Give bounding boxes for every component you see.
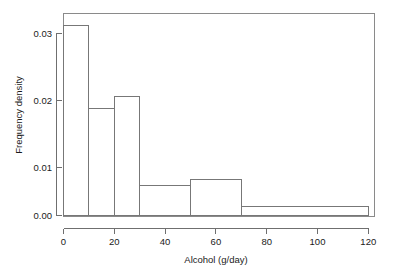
histogram-figure: 0 20 40 60 80 100 120 0.03 0.02 0.01 0.0… — [0, 0, 397, 277]
x-tick-label-100: 100 — [310, 236, 326, 247]
y-tick-label-000: 0.00 — [34, 210, 53, 221]
x-axis-ticks — [64, 229, 369, 234]
histogram-plot: 0 20 40 60 80 100 120 0.03 0.02 0.01 0.0… — [0, 0, 397, 277]
y-axis-title: Frequency density — [13, 76, 24, 154]
y-axis-ticks — [57, 33, 62, 216]
table-row — [64, 26, 89, 216]
table-row — [191, 180, 242, 216]
table-row — [114, 97, 139, 216]
x-tick-label-0: 0 — [61, 236, 66, 247]
y-tick-label-002: 0.02 — [34, 95, 53, 106]
y-tick-label-003: 0.03 — [34, 28, 53, 39]
table-row — [241, 207, 368, 216]
bars-group — [64, 26, 369, 216]
plot-frame — [64, 14, 375, 217]
x-tick-label-80: 80 — [261, 236, 272, 247]
x-tick-label-120: 120 — [360, 236, 376, 247]
table-row — [89, 109, 114, 216]
x-axis-title: Alcohol (g/day) — [184, 254, 247, 265]
x-tick-label-40: 40 — [160, 236, 171, 247]
x-tick-label-20: 20 — [109, 236, 120, 247]
table-row — [140, 186, 191, 216]
y-tick-label-001: 0.01 — [34, 162, 53, 173]
x-tick-label-60: 60 — [211, 236, 222, 247]
